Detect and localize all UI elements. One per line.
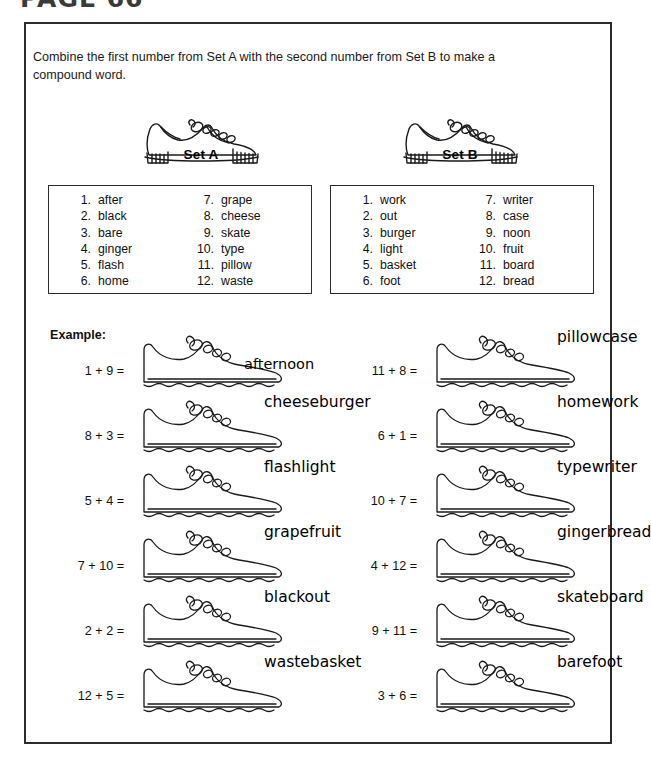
item-number: 3. [349, 225, 373, 241]
answer-shoe-outline[interactable]: flashlight [136, 460, 302, 522]
set-a-shoe-header: Set A [137, 113, 265, 167]
list-item: 5.flash [67, 257, 180, 273]
answer-shoe-outline[interactable]: pillowcase [429, 330, 595, 392]
item-number: 9. [190, 225, 214, 241]
equation-text: 6 + 1 = [345, 429, 417, 443]
item-word: out [380, 208, 462, 224]
item-word: basket [380, 257, 462, 273]
equation-text: 8 + 3 = [52, 429, 124, 443]
list-item: 6.home [67, 273, 180, 289]
item-number: 2. [67, 208, 91, 224]
item-word: case [503, 208, 593, 224]
list-item: 3.bare [67, 225, 180, 241]
item-number: 3. [67, 225, 91, 241]
list-item: 8.cheese [190, 208, 311, 224]
item-number: 6. [67, 273, 91, 289]
item-number: 6. [349, 273, 373, 289]
list-item: 4.ginger [67, 241, 180, 257]
item-word: ginger [98, 241, 180, 257]
item-word: bread [503, 273, 593, 289]
list-item: 9.skate [190, 225, 311, 241]
instructions-text: Combine the first number from Set A with… [33, 48, 543, 84]
item-number: 5. [67, 257, 91, 273]
list-item: 1.work [349, 192, 462, 208]
item-number: 11. [472, 257, 496, 273]
answer-shoe-outline[interactable]: cheeseburger [136, 395, 302, 457]
item-word: burger [380, 225, 462, 241]
answer-word: flashlight [264, 458, 336, 476]
list-item: 11.pillow [190, 257, 311, 273]
problem-row: 5 + 4 = flashlight [52, 460, 302, 524]
item-number: 7. [190, 192, 214, 208]
item-number: 7. [472, 192, 496, 208]
list-item: 5.basket [349, 257, 462, 273]
problem-row: 1 + 9 = afternoon [52, 330, 302, 394]
equation-text: 5 + 4 = [52, 494, 124, 508]
item-word: type [221, 241, 311, 257]
set-a-column-right: 7.grape 8.cheese 9.skate 10.type 11.pill… [180, 192, 311, 293]
problem-row: 7 + 10 = grapefruit [52, 525, 302, 589]
item-number: 4. [349, 241, 373, 257]
item-word: waste [221, 273, 311, 289]
answer-shoe-outline[interactable]: blackout [136, 590, 302, 652]
equation-text: 2 + 2 = [52, 624, 124, 638]
item-word: flash [98, 257, 180, 273]
item-word: board [503, 257, 593, 273]
item-number: 5. [349, 257, 373, 273]
item-number: 9. [472, 225, 496, 241]
item-word: grape [221, 192, 311, 208]
item-word: pillow [221, 257, 311, 273]
item-word: bare [98, 225, 180, 241]
list-item: 10.fruit [472, 241, 593, 257]
list-item: 1.after [67, 192, 180, 208]
list-item: 8.case [472, 208, 593, 224]
item-number: 1. [67, 192, 91, 208]
list-item: 6.foot [349, 273, 462, 289]
set-b-shoe-header: Set B [396, 113, 524, 167]
list-item: 7.writer [472, 192, 593, 208]
answer-word: blackout [264, 588, 330, 606]
answer-shoe-outline[interactable]: skateboard [429, 590, 595, 652]
problem-row: 11 + 8 = pillowcase [345, 330, 595, 394]
list-item: 2.out [349, 208, 462, 224]
list-item: 3.burger [349, 225, 462, 241]
item-word: home [98, 273, 180, 289]
item-number: 10. [190, 241, 214, 257]
answer-shoe-outline[interactable]: grapefruit [136, 525, 302, 587]
answer-word: skateboard [557, 588, 644, 606]
problem-row: 10 + 7 = typewriter [345, 460, 595, 524]
item-word: noon [503, 225, 593, 241]
item-word: work [380, 192, 462, 208]
item-number: 8. [472, 208, 496, 224]
problem-row: 2 + 2 = blackout [52, 590, 302, 654]
item-word: foot [380, 273, 462, 289]
equation-text: 12 + 5 = [52, 689, 124, 703]
page-number-header: PAGE 66 [20, 0, 143, 13]
list-item: 9.noon [472, 225, 593, 241]
item-number: 4. [67, 241, 91, 257]
equation-text: 11 + 8 = [345, 364, 417, 378]
problem-row: 3 + 6 = barefoot [345, 655, 595, 719]
item-number: 2. [349, 208, 373, 224]
equation-text: 9 + 11 = [345, 624, 417, 638]
item-word: black [98, 208, 180, 224]
item-number: 1. [349, 192, 373, 208]
set-b-column-left: 1.work 2.out 3.burger 4.light 5.basket 6… [331, 192, 462, 293]
set-a-word-list: 1.after 2.black 3.bare 4.ginger 5.flash … [48, 185, 312, 294]
item-number: 12. [472, 273, 496, 289]
item-word: fruit [503, 241, 593, 257]
answer-shoe-outline[interactable]: barefoot [429, 655, 595, 717]
set-b-label: Set B [396, 147, 524, 162]
answer-shoe-outline[interactable]: wastebasket [136, 655, 302, 717]
item-number: 11. [190, 257, 214, 273]
equation-text: 4 + 12 = [345, 559, 417, 573]
answer-shoe-outline[interactable]: homework [429, 395, 595, 457]
answer-shoe-outline[interactable]: afternoon [136, 330, 302, 392]
answer-shoe-outline[interactable]: typewriter [429, 460, 595, 522]
answer-word: gingerbread [557, 523, 651, 541]
item-number: 8. [190, 208, 214, 224]
set-b-column-right: 7.writer 8.case 9.noon 10.fruit 11.board… [462, 192, 593, 293]
set-b-word-list: 1.work 2.out 3.burger 4.light 5.basket 6… [330, 185, 594, 294]
answer-shoe-outline[interactable]: gingerbread [429, 525, 595, 587]
item-word: skate [221, 225, 311, 241]
